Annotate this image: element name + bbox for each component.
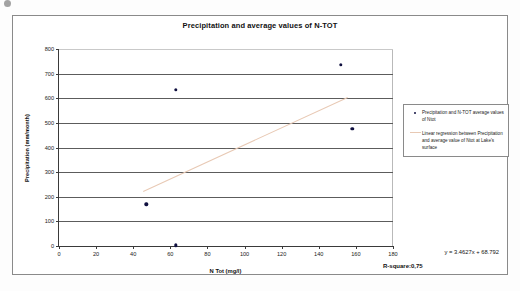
y-axis-tick xyxy=(56,74,59,75)
x-axis-tick xyxy=(59,246,60,249)
x-axis-tick xyxy=(133,246,134,249)
legend-item-scatter: Precipitation and N-TOT average values o… xyxy=(408,110,504,124)
x-axis-tick-label: 120 xyxy=(277,251,286,257)
y-axis-tick-label: 100 xyxy=(45,218,54,224)
y-axis-tick xyxy=(56,148,59,149)
x-axis-tick-label: 60 xyxy=(167,251,173,257)
y-gridline xyxy=(59,123,393,124)
x-axis-tick-label: 100 xyxy=(240,251,249,257)
legend-label-scatter: Precipitation and N-TOT average values o… xyxy=(422,110,504,124)
y-axis-tick xyxy=(56,49,59,50)
y-axis-tick xyxy=(56,98,59,99)
plot-area: 0100200300400500600700800020406080100120… xyxy=(58,49,393,247)
legend-line-marker-icon xyxy=(408,131,422,134)
chart-title: Precipitation and average values of N-TO… xyxy=(13,21,507,30)
y-axis-title: Precipitation (mm/month) xyxy=(24,114,30,182)
y-axis-tick-label: 600 xyxy=(45,95,54,101)
x-axis-tick-label: 80 xyxy=(204,251,210,257)
y-axis-tick-label: 200 xyxy=(45,194,54,200)
x-axis-tick xyxy=(207,246,208,249)
y-gridline xyxy=(59,221,393,222)
x-axis-tick xyxy=(319,246,320,249)
regression-trendline xyxy=(143,97,348,192)
chart-legend: Precipitation and N-TOT average values o… xyxy=(403,104,509,157)
x-axis-tick-label: 40 xyxy=(130,251,136,257)
y-axis-tick xyxy=(56,197,59,198)
y-gridline xyxy=(59,49,393,50)
page-canvas: Precipitation and average values of N-TO… xyxy=(0,0,520,291)
x-axis-title: N Tot (mg/l) xyxy=(58,268,393,274)
y-axis-tick-label: 400 xyxy=(45,145,54,151)
y-gridline xyxy=(59,148,393,149)
y-gridline xyxy=(59,197,393,198)
y-axis-tick xyxy=(56,123,59,124)
y-axis-tick-label: 800 xyxy=(45,46,54,52)
x-axis-tick xyxy=(96,246,97,249)
scatter-point xyxy=(174,244,177,247)
scatter-point xyxy=(174,88,177,91)
scatter-point xyxy=(350,127,353,130)
y-gridline xyxy=(59,74,393,75)
regression-equation: y = 3.4627x + 68.792 xyxy=(379,249,499,255)
scatter-point xyxy=(145,202,148,205)
r-square-value: R-square:0,75 xyxy=(379,263,499,269)
x-axis-tick xyxy=(170,246,171,249)
x-axis-tick-label: 160 xyxy=(351,251,360,257)
x-axis-tick xyxy=(282,246,283,249)
x-axis-tick xyxy=(245,246,246,249)
legend-item-regression: Linear regression between Precipitation … xyxy=(408,131,504,152)
y-axis-tick-label: 0 xyxy=(51,243,54,249)
chart-container: Precipitation and average values of N-TO… xyxy=(12,15,508,275)
y-gridline xyxy=(59,172,393,173)
x-axis-tick-label: 20 xyxy=(93,251,99,257)
scan-artifact-mark xyxy=(4,0,11,7)
scatter-point xyxy=(339,63,342,66)
legend-label-regression: Linear regression between Precipitation … xyxy=(422,131,504,152)
x-axis-tick-label: 140 xyxy=(314,251,323,257)
y-axis-tick xyxy=(56,221,59,222)
y-axis-tick-label: 300 xyxy=(45,169,54,175)
y-axis-tick-label: 700 xyxy=(45,71,54,77)
y-axis-tick-label: 500 xyxy=(45,120,54,126)
legend-dot-marker-icon xyxy=(408,110,422,114)
x-axis-tick xyxy=(356,246,357,249)
y-axis-tick xyxy=(56,172,59,173)
x-axis-tick-label: 0 xyxy=(57,251,60,257)
regression-annotations: y = 3.4627x + 68.792 R-square:0,75 xyxy=(379,249,499,269)
